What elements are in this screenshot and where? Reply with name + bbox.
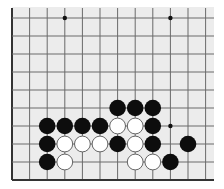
black-stone[interactable]	[162, 154, 179, 171]
black-stone[interactable]	[180, 136, 197, 153]
black-stone[interactable]	[57, 118, 74, 135]
star-point	[168, 16, 172, 20]
star-point	[168, 124, 172, 128]
board-surface	[12, 7, 214, 180]
white-stone[interactable]	[110, 118, 126, 134]
white-stone[interactable]	[127, 118, 143, 134]
black-stone[interactable]	[109, 136, 126, 153]
black-stone[interactable]	[74, 118, 91, 135]
white-stone[interactable]	[145, 154, 161, 170]
star-point	[63, 16, 67, 20]
white-stone[interactable]	[57, 154, 73, 170]
white-stone[interactable]	[92, 136, 108, 152]
black-stone[interactable]	[127, 100, 144, 117]
black-stone[interactable]	[109, 100, 126, 117]
white-stone[interactable]	[75, 136, 91, 152]
black-stone[interactable]	[39, 136, 56, 153]
white-stone[interactable]	[127, 154, 143, 170]
go-board[interactable]	[0, 0, 224, 189]
white-stone[interactable]	[127, 136, 143, 152]
black-stone[interactable]	[145, 136, 162, 153]
black-stone[interactable]	[39, 118, 56, 135]
black-stone[interactable]	[92, 118, 109, 135]
black-stone[interactable]	[145, 100, 162, 117]
black-stone[interactable]	[145, 118, 162, 135]
black-stone[interactable]	[39, 154, 56, 171]
white-stone[interactable]	[57, 136, 73, 152]
